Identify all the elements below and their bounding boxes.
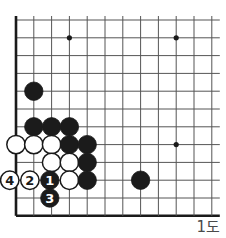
- figure-label: 1도: [196, 215, 220, 236]
- stone-black[interactable]: [42, 118, 60, 136]
- stone-white[interactable]: [60, 171, 78, 189]
- stone-white[interactable]: [42, 135, 60, 153]
- stone-white[interactable]: [7, 135, 25, 153]
- move-number-1: 1: [45, 173, 54, 188]
- stone-black[interactable]: [78, 171, 96, 189]
- stone-black[interactable]: [78, 153, 96, 171]
- stone-white[interactable]: [42, 153, 60, 171]
- stone-white[interactable]: [25, 135, 43, 153]
- star-point: [67, 35, 72, 40]
- stone-black[interactable]: [25, 118, 43, 136]
- stone-black[interactable]: [60, 135, 78, 153]
- star-point: [174, 142, 179, 147]
- go-board[interactable]: 4213: [0, 0, 226, 238]
- stone-black[interactable]: [131, 171, 149, 189]
- move-number-2: 2: [25, 173, 34, 188]
- stone-black[interactable]: [25, 82, 43, 100]
- move-number-3: 3: [45, 191, 54, 206]
- stone-black[interactable]: [60, 118, 78, 136]
- stone-black[interactable]: [78, 135, 96, 153]
- star-point: [174, 35, 179, 40]
- move-number-4: 4: [5, 173, 14, 188]
- go-diagram-figure: 4213 1도: [0, 0, 226, 238]
- stone-white[interactable]: [60, 153, 78, 171]
